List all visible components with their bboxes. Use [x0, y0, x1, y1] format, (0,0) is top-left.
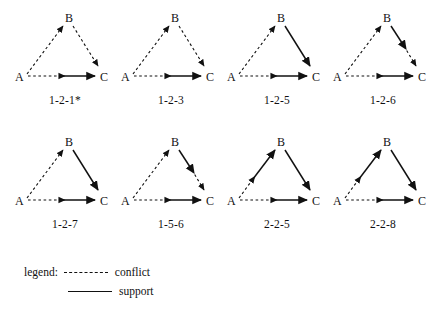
- triangle-diagram-figure: B A C 1-2-1* B A C 1-2-3: [0, 0, 443, 316]
- triangle-svg-1-2-6: B A C: [328, 4, 438, 96]
- triangle-svg-1-2-7: B A C: [10, 128, 120, 220]
- edge-a-to-b-conflict: [239, 179, 253, 198]
- solid-line-icon: [68, 291, 112, 292]
- edge-a-to-b-conflict: [345, 179, 359, 198]
- diagram-cell-1-2-3: B A C 1-2-3: [116, 4, 226, 122]
- diagram-cell-1-2-1: B A C 1-2-1*: [10, 4, 120, 122]
- triangle-svg-1-2-1: B A C: [10, 4, 120, 96]
- node-label-c: C: [206, 70, 214, 84]
- diagram-caption: 1-2-7: [10, 218, 120, 230]
- node-label-b: B: [65, 11, 73, 25]
- edge-b-to-c: [179, 26, 204, 66]
- diagram-cell-2-2-5: B A C 2-2-5: [222, 128, 332, 246]
- diagram-caption: 2-2-5: [222, 218, 332, 230]
- node-label-a: A: [227, 70, 236, 84]
- node-label-c: C: [100, 70, 108, 84]
- diagram-cell-2-2-8: B A C 2-2-8: [328, 128, 438, 246]
- edge-a-to-b: [133, 26, 169, 74]
- edge-b-to-c: [391, 150, 416, 190]
- edge-b-to-c-conflict: [192, 170, 204, 190]
- node-label-c: C: [312, 70, 320, 84]
- edge-b-to-c: [73, 26, 98, 66]
- legend-row-conflict: legend: conflict: [24, 262, 354, 281]
- node-label-b: B: [383, 135, 391, 149]
- diagram-cell-1-2-7: B A C 1-2-7: [10, 128, 120, 246]
- triangle-svg-1-5-6: B A C: [116, 128, 226, 220]
- edge-a-to-b: [27, 26, 63, 74]
- diagram-caption: 1-5-6: [116, 218, 226, 230]
- diagram-caption: 1-2-3: [116, 94, 226, 106]
- node-label-c: C: [100, 194, 108, 208]
- edge-b-to-c-support: [391, 26, 404, 46]
- node-label-c: C: [206, 194, 214, 208]
- node-label-a: A: [121, 194, 130, 208]
- legend-support-label: support: [119, 285, 154, 297]
- legend: legend: conflict support: [24, 262, 354, 300]
- edge-a-to-b: [239, 26, 275, 74]
- node-label-b: B: [277, 135, 285, 149]
- edge-a-to-b: [27, 150, 63, 198]
- edge-a-to-b-support: [253, 150, 275, 179]
- node-label-a: A: [15, 194, 24, 208]
- node-label-b: B: [65, 135, 73, 149]
- diagram-grid: B A C 1-2-1* B A C 1-2-3: [0, 0, 443, 250]
- diagram-cell-1-2-6: B A C 1-2-6: [328, 4, 438, 122]
- node-label-c: C: [418, 194, 426, 208]
- legend-row-support: support: [24, 281, 354, 300]
- node-label-b: B: [383, 11, 391, 25]
- diagram-caption: 2-2-8: [328, 218, 438, 230]
- edge-a-to-b: [345, 26, 381, 74]
- diagram-cell-1-5-6: B A C 1-5-6: [116, 128, 226, 246]
- edge-a-to-b-support: [359, 150, 381, 179]
- legend-conflict-label: conflict: [115, 266, 150, 278]
- node-label-a: A: [121, 70, 130, 84]
- edge-b-to-c: [285, 150, 310, 190]
- diagram-caption: 1-2-6: [328, 94, 438, 106]
- node-label-b: B: [171, 11, 179, 25]
- edge-b-to-c: [285, 26, 310, 66]
- edge-b-to-c: [73, 150, 98, 190]
- diagram-caption: 1-2-5: [222, 94, 332, 106]
- edge-b-to-c-support: [179, 150, 192, 170]
- node-label-a: A: [333, 194, 342, 208]
- legend-title: legend:: [24, 266, 58, 278]
- edge-b-to-c-conflict: [404, 46, 416, 66]
- diagram-caption: 1-2-1*: [10, 94, 120, 106]
- node-label-b: B: [277, 11, 285, 25]
- node-label-b: B: [171, 135, 179, 149]
- triangle-svg-1-2-5: B A C: [222, 4, 332, 96]
- diagram-cell-1-2-5: B A C 1-2-5: [222, 4, 332, 122]
- edge-a-to-b: [133, 150, 169, 198]
- node-label-c: C: [312, 194, 320, 208]
- triangle-svg-2-2-5: B A C: [222, 128, 332, 220]
- node-label-c: C: [418, 70, 426, 84]
- node-label-a: A: [15, 70, 24, 84]
- dashed-line-icon: [64, 272, 108, 273]
- node-label-a: A: [227, 194, 236, 208]
- triangle-svg-1-2-3: B A C: [116, 4, 226, 96]
- node-label-a: A: [333, 70, 342, 84]
- triangle-svg-2-2-8: B A C: [328, 128, 438, 220]
